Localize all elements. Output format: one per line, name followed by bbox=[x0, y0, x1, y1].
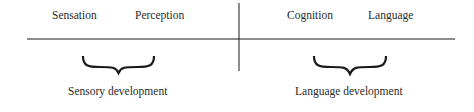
label-sensation: Sensation bbox=[52, 9, 97, 21]
label-cognition: Cognition bbox=[287, 9, 333, 21]
label-perception: Perception bbox=[135, 9, 184, 21]
right-brace-icon bbox=[314, 56, 386, 74]
label-language-development: Language development bbox=[295, 85, 403, 97]
label-sensory-development: Sensory development bbox=[68, 85, 167, 97]
label-language: Language bbox=[368, 9, 413, 21]
left-brace-icon bbox=[83, 56, 154, 73]
